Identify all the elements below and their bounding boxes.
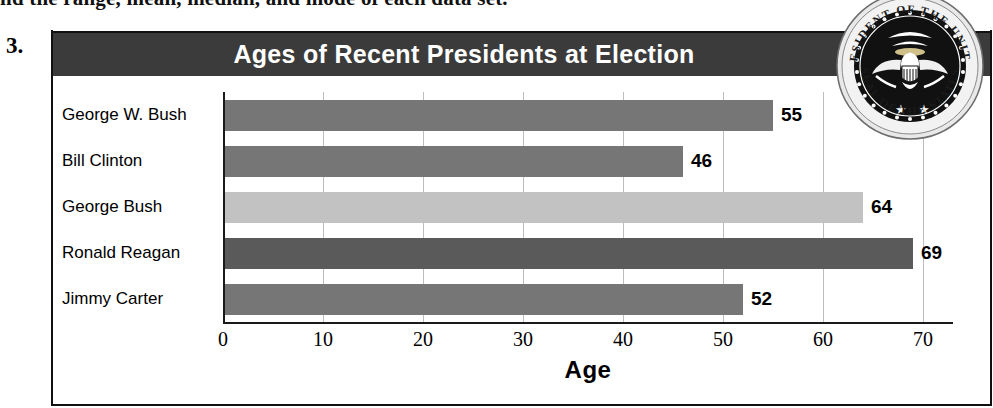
category-label: Ronald Reagan — [62, 243, 180, 263]
bar-value-label: 46 — [691, 150, 712, 172]
bar-george-w-bush — [223, 100, 773, 131]
problem-number: 3. — [6, 33, 23, 59]
x-tick-label: 40 — [613, 328, 633, 351]
bar-value-label: 55 — [781, 104, 802, 126]
bar-jimmy-carter — [223, 284, 743, 315]
bar-bill-clinton — [223, 146, 683, 177]
bar-row: 64 — [223, 186, 953, 232]
x-tick-label: 70 — [913, 328, 933, 351]
presidential-seal-icon: ★ ★ PRESIDENT OF THE UNITED SEAL OF THE … — [836, 0, 984, 140]
x-axis-line — [223, 322, 953, 324]
y-axis-line — [223, 92, 225, 323]
bar-row: 46 — [223, 140, 953, 186]
category-label: George Bush — [62, 197, 162, 217]
category-label: Bill Clinton — [62, 151, 142, 171]
bar-row: 69 — [223, 232, 953, 278]
x-tick-label: 30 — [513, 328, 533, 351]
x-tick-label: 10 — [313, 328, 333, 351]
x-tick-label: 50 — [713, 328, 733, 351]
bar-value-label: 64 — [871, 196, 892, 218]
x-axis-title: Age — [223, 356, 953, 384]
category-axis-labels: George W. BushBill ClintonGeorge BushRon… — [62, 92, 212, 322]
x-tick-label: 20 — [413, 328, 433, 351]
bar-row: 52 — [223, 278, 953, 324]
bar-value-label: 52 — [751, 288, 772, 310]
bar-george-bush — [223, 192, 863, 223]
category-label: Jimmy Carter — [62, 289, 163, 309]
x-tick-label: 60 — [813, 328, 833, 351]
x-tick-label: 0 — [218, 328, 228, 351]
category-label: George W. Bush — [62, 105, 187, 125]
bar-value-label: 69 — [921, 242, 942, 264]
bar-ronald-reagan — [223, 238, 913, 269]
